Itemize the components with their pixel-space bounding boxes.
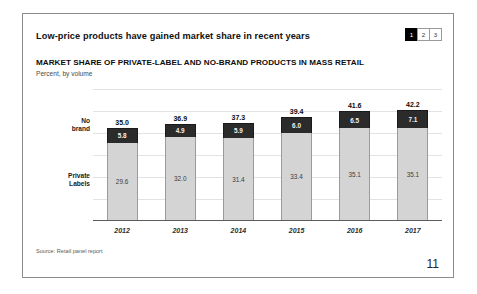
page-number: 11 (427, 257, 439, 271)
bar-value-no-brand-2016: 6.5 (350, 117, 359, 124)
bar-stack-2013: 4.9 32.0 (165, 124, 196, 221)
bar-total-2017: 42.2 (390, 101, 436, 108)
x-tick-2015: 2015 (274, 227, 320, 234)
bar-total-2015: 39.4 (274, 108, 320, 115)
bar-column-2015[interactable]: 39.4 6.0 33.4 (274, 89, 320, 221)
bar-column-2012[interactable]: 35.0 5.8 29.6 (99, 89, 145, 221)
bar-group: 35.0 5.8 29.6 36.9 4.9 32 (93, 89, 442, 221)
bar-column-2017[interactable]: 42.2 7.1 35.1 (390, 89, 436, 221)
source-note: Source: Retail panel report (36, 248, 103, 254)
bar-segment-no-brand-2014[interactable]: 5.9 (223, 123, 254, 139)
x-axis-line (93, 220, 442, 221)
x-tick-2013: 2013 (157, 227, 203, 234)
bar-segment-private-2017[interactable]: 35.1 (397, 128, 428, 221)
bar-segment-private-2016[interactable]: 35.1 (339, 128, 370, 221)
bar-value-no-brand-2012: 5.8 (118, 132, 127, 139)
bar-value-private-2017: 35.1 (407, 171, 419, 178)
bar-value-no-brand-2017: 7.1 (408, 116, 417, 123)
bar-total-2014: 37.3 (215, 114, 261, 121)
page-chip-group: 1 2 3 (406, 28, 442, 41)
bar-stack-2017: 7.1 35.1 (397, 110, 428, 221)
bar-value-private-2016: 35.1 (348, 171, 360, 178)
series-label-no-brand-line2: brand (42, 125, 90, 133)
x-tick-2014: 2014 (215, 227, 261, 234)
bar-total-2016: 41.6 (332, 102, 378, 109)
bar-value-private-2014: 31.4 (232, 176, 244, 183)
bar-value-no-brand-2013: 4.9 (176, 127, 185, 134)
series-label-private-line2: Labels (42, 180, 90, 188)
bar-value-no-brand-2015: 6.0 (292, 122, 301, 129)
slide-frame: Low-price products have gained market sh… (22, 13, 454, 278)
bar-value-private-2013: 32.0 (174, 175, 186, 182)
x-axis-tick-labels: 2012 2013 2014 2015 2016 2017 (93, 222, 442, 239)
page-title: Low-price products have gained market sh… (36, 31, 310, 41)
bar-total-2013: 36.9 (157, 115, 203, 122)
bar-stack-2016: 6.5 35.1 (339, 111, 370, 221)
bar-value-private-2015: 33.4 (290, 173, 302, 180)
series-label-private-line1: Private (42, 172, 90, 180)
bar-segment-private-2013[interactable]: 32.0 (165, 137, 196, 221)
series-label-no-brand: No brand (42, 117, 90, 133)
x-tick-2017: 2017 (390, 227, 436, 234)
series-label-private-labels: Private Labels (42, 172, 90, 188)
bar-segment-no-brand-2012[interactable]: 5.8 (107, 128, 138, 143)
bar-column-2016[interactable]: 41.6 6.5 35.1 (332, 89, 378, 221)
bar-segment-no-brand-2017[interactable]: 7.1 (397, 110, 428, 129)
slide-header: Low-price products have gained market sh… (23, 14, 453, 48)
bar-column-2014[interactable]: 37.3 5.9 31.4 (215, 89, 261, 221)
chart-subtitle: Percent, by volume (36, 70, 92, 77)
bar-column-2013[interactable]: 36.9 4.9 32.0 (157, 89, 203, 221)
bar-stack-2012: 5.8 29.6 (107, 128, 138, 221)
x-tick-2012: 2012 (99, 227, 145, 234)
bar-total-2012: 35.0 (99, 119, 145, 126)
bar-segment-no-brand-2015[interactable]: 6.0 (281, 117, 312, 133)
bar-segment-no-brand-2013[interactable]: 4.9 (165, 124, 196, 137)
chart-plot-area: No brand Private Labels 35.0 5.8 29.6 (36, 89, 442, 239)
bar-segment-private-2014[interactable]: 31.4 (223, 138, 254, 221)
bar-segment-private-2015[interactable]: 33.4 (281, 133, 312, 221)
series-label-no-brand-line1: No (42, 117, 90, 125)
page-chip-3[interactable]: 3 (429, 28, 442, 41)
bar-value-private-2012: 29.6 (116, 178, 128, 185)
bar-value-no-brand-2014: 5.9 (234, 127, 243, 134)
bar-stack-2014: 5.9 31.4 (223, 123, 254, 221)
x-tick-2016: 2016 (332, 227, 378, 234)
chart-title: MARKET SHARE OF PRIVATE-LABEL AND NO-BRA… (36, 58, 364, 67)
bar-segment-no-brand-2016[interactable]: 6.5 (339, 111, 370, 128)
bar-segment-private-2012[interactable]: 29.6 (107, 143, 138, 221)
bar-stack-2015: 6.0 33.4 (281, 117, 312, 221)
